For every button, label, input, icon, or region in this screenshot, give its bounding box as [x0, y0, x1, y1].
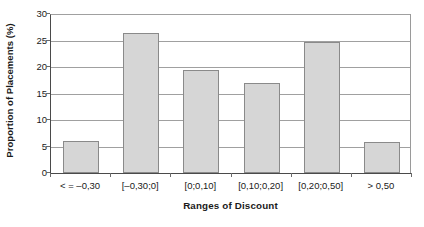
y-axis-tick-label: 20	[23, 62, 47, 72]
x-axis-tick-label: < = –0,30	[50, 180, 110, 191]
y-axis-tick-label: 30	[23, 9, 47, 19]
gridline	[51, 94, 410, 95]
x-axis-tick-label: [0,10;0,20]	[231, 180, 291, 191]
y-axis-title-text: Proportion of Placements (%)	[4, 23, 15, 157]
bar	[183, 70, 219, 173]
bar	[244, 83, 280, 173]
y-axis-tick-label: 15	[23, 89, 47, 99]
y-axis-tick-label: 0	[23, 168, 47, 178]
x-axis-tick-mark	[411, 173, 412, 177]
bar	[123, 33, 159, 173]
y-axis-tick-labels: 051015202530	[20, 0, 47, 227]
y-axis-title: Proportion of Placements (%)	[0, 0, 18, 180]
gridline	[51, 14, 410, 15]
y-axis-tick-mark	[46, 13, 50, 14]
x-axis-tick-label: > 0,50	[351, 180, 411, 191]
x-axis-title: Ranges of Discount	[50, 200, 411, 211]
y-axis-tick-mark	[46, 66, 50, 67]
bar	[63, 141, 99, 173]
x-axis-tick-label: [0,20;0,50]	[291, 180, 351, 191]
x-axis-tick-mark	[110, 173, 111, 177]
x-axis-tick-mark	[50, 173, 51, 177]
x-axis-tick-label: [0;0,10]	[170, 180, 230, 191]
bar	[304, 42, 340, 173]
gridline	[51, 147, 410, 148]
y-axis-tick-label: 25	[23, 36, 47, 46]
x-axis-tick-mark	[291, 173, 292, 177]
bar-chart-figure: Proportion of Placements (%) 05101520253…	[0, 0, 424, 227]
x-axis-tick-mark	[170, 173, 171, 177]
y-axis-tick-label: 5	[23, 142, 47, 152]
y-axis-tick-mark	[46, 119, 50, 120]
x-axis-tick-label: [–0,30;0]	[110, 180, 170, 191]
y-axis-tick-mark	[46, 40, 50, 41]
bar	[364, 142, 400, 173]
gridline	[51, 67, 410, 68]
gridline	[51, 41, 410, 42]
gridline	[51, 120, 410, 121]
y-axis-tick-label: 10	[23, 115, 47, 125]
plot-area	[50, 14, 411, 173]
y-axis-tick-mark	[46, 146, 50, 147]
x-axis-tick-mark	[351, 173, 352, 177]
x-axis-tick-mark	[231, 173, 232, 177]
y-axis-tick-mark	[46, 93, 50, 94]
